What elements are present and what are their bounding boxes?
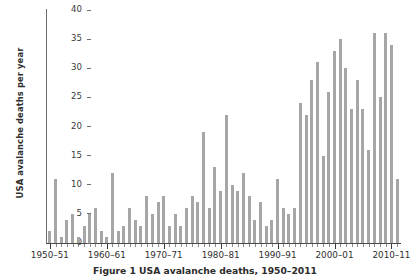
bar <box>225 115 228 243</box>
bar <box>111 173 114 243</box>
bar <box>117 231 120 243</box>
bar <box>77 237 80 243</box>
x-major-tick <box>164 244 165 249</box>
bar <box>339 39 342 243</box>
bar <box>299 103 302 243</box>
bar <box>356 80 359 243</box>
bar <box>293 208 296 243</box>
x-axis-tick-labels: 1950–511960–611970–711980–811990–912000–… <box>0 250 410 264</box>
bar <box>196 202 199 243</box>
bar <box>333 51 336 243</box>
bar <box>384 33 387 243</box>
bar <box>65 220 68 243</box>
bar <box>191 196 194 243</box>
bar <box>259 202 262 243</box>
x-major-tick <box>50 244 51 249</box>
x-major-tick <box>335 244 336 249</box>
bar <box>350 109 353 243</box>
bar <box>139 226 142 243</box>
plot-area <box>47 10 400 243</box>
bar <box>208 208 211 243</box>
bar <box>322 156 325 243</box>
bar <box>105 237 108 243</box>
bar <box>71 214 74 243</box>
bar <box>128 208 131 243</box>
bar <box>276 179 279 243</box>
bar <box>202 132 205 243</box>
bar <box>157 202 160 243</box>
bar <box>236 191 239 243</box>
bar <box>373 33 376 243</box>
bar <box>60 237 63 243</box>
bar <box>83 226 86 243</box>
bar <box>231 185 234 243</box>
bar <box>361 109 364 243</box>
bar <box>213 167 216 243</box>
bar <box>94 208 97 243</box>
bar <box>327 92 330 243</box>
bar <box>316 62 319 243</box>
bar <box>265 226 268 243</box>
bar <box>344 68 347 243</box>
bar <box>134 220 137 243</box>
x-major-tick <box>221 244 222 249</box>
bar <box>396 179 399 243</box>
bar <box>162 196 165 243</box>
bar <box>151 214 154 243</box>
bar <box>253 220 256 243</box>
x-major-tick <box>107 244 108 249</box>
x-major-tick <box>391 244 392 249</box>
y-axis-ticks: 0510152025303540 <box>0 0 46 276</box>
bar <box>179 226 182 243</box>
bar <box>174 214 177 243</box>
bar <box>367 150 370 243</box>
bar <box>287 214 290 243</box>
figure-caption: Figure 1 USA avalanche deaths, 1950–2011 <box>0 265 410 276</box>
bar <box>168 226 171 243</box>
x-axis-major-ticks <box>47 244 400 249</box>
x-major-tick <box>278 244 279 249</box>
bar <box>379 97 382 243</box>
bar <box>282 208 285 243</box>
bar <box>88 214 91 243</box>
bar <box>390 45 393 243</box>
bar <box>219 191 222 243</box>
bar <box>310 80 313 243</box>
bar <box>185 208 188 243</box>
bar <box>270 220 273 243</box>
x-tick-label: 2010–11 <box>356 250 415 260</box>
bar <box>305 115 308 243</box>
bar <box>48 231 51 243</box>
bar <box>54 179 57 243</box>
bar <box>122 226 125 243</box>
bar <box>242 173 245 243</box>
bar <box>248 196 251 243</box>
bar-series <box>47 10 400 243</box>
bar <box>145 196 148 243</box>
bar <box>100 231 103 243</box>
